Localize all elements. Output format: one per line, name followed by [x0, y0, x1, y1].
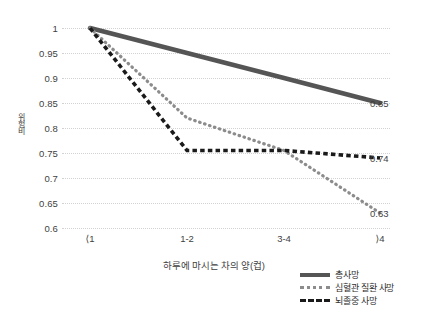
data-label-cardiovascular-death: 0.63 — [370, 208, 389, 219]
y-tick-label: 0.6 — [44, 223, 58, 234]
legend-swatch-dashed-icon — [300, 299, 330, 302]
series-line-total-mortality — [90, 28, 380, 103]
x-tick-label: 3-4 — [277, 233, 291, 244]
legend-swatch-dotted-icon — [300, 286, 330, 289]
x-tick-label: ⟨1 — [86, 233, 95, 244]
y-tick-label: 0.65 — [39, 198, 58, 209]
x-tick-label: ⟩4 — [376, 233, 385, 244]
y-tick-label: 0.7 — [44, 173, 58, 184]
legend-label: 뇌졸중 사망 — [335, 294, 376, 307]
chart-container: 위험비 1 0.95 0.9 0.85 0.8 0.75 0.7 0.65 0.… — [0, 0, 428, 322]
gridline — [62, 228, 390, 229]
plot-area — [62, 28, 390, 228]
series-lines — [62, 28, 390, 228]
x-tick-label: 1-2 — [180, 233, 194, 244]
legend-item-stroke-death[interactable]: 뇌졸중 사망 — [300, 294, 424, 307]
y-tick-label: 1 — [53, 23, 58, 34]
legend-label: 심혈관 질환 사망 — [335, 281, 394, 294]
data-label-stroke-death: 0.74 — [370, 153, 389, 164]
y-tick-label: 0.9 — [44, 73, 58, 84]
y-tick-label: 0.95 — [39, 48, 58, 59]
y-tick-label: 0.8 — [44, 123, 58, 134]
x-axis-tick-labels: ⟨1 1-2 3-4 ⟩4 — [62, 233, 390, 249]
legend-swatch-solid-icon — [300, 273, 330, 277]
y-axis-tick-labels: 1 0.95 0.9 0.85 0.8 0.75 0.7 0.65 0.6 — [0, 28, 58, 228]
data-label-total-mortality: 0.85 — [370, 98, 389, 109]
legend-item-total-mortality[interactable]: 총사망 — [300, 268, 424, 281]
y-tick-label: 0.75 — [39, 148, 58, 159]
series-line-cardiovascular-death — [90, 28, 380, 213]
legend-label: 총사망 — [335, 268, 358, 281]
y-tick-label: 0.85 — [39, 98, 58, 109]
legend-item-cardiovascular-death[interactable]: 심혈관 질환 사망 — [300, 281, 424, 294]
chart-legend: 총사망 심혈관 질환 사망 뇌졸중 사망 — [300, 268, 424, 307]
